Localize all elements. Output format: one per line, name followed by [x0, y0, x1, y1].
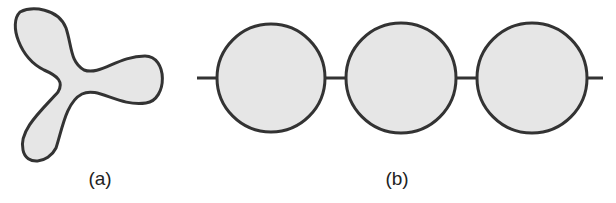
panel-b-chain — [197, 23, 603, 133]
panel-b-label: (b) — [385, 168, 408, 190]
circle-2 — [346, 23, 456, 133]
panel-a-blob — [15, 9, 162, 161]
circle-3 — [477, 23, 587, 133]
panel-a-label: (a) — [88, 168, 111, 190]
circle-1 — [217, 24, 325, 132]
